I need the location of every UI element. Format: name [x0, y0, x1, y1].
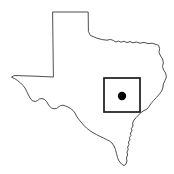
texas-locator-map	[0, 0, 174, 174]
site-location-dot	[118, 92, 126, 100]
map-canvas	[0, 0, 174, 174]
